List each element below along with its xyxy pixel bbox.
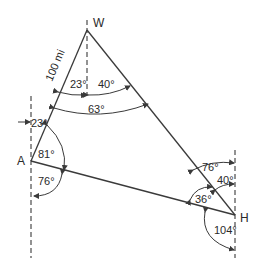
angle-w-left: 23° <box>70 78 87 90</box>
angle-a-bearing: 23° <box>31 117 48 129</box>
distance-label: 100 mi <box>43 48 67 83</box>
arc-w-23 <box>58 92 86 95</box>
angle-a-lower: 76° <box>38 175 55 187</box>
side-wh <box>87 30 235 215</box>
angle-h-interior: 36° <box>195 193 212 205</box>
angle-w-total: 63° <box>88 103 105 115</box>
angle-h-lower: 104° <box>214 224 237 236</box>
point-label-h: H <box>240 211 249 225</box>
angle-a-upper: 81° <box>38 148 55 160</box>
angle-w-right: 40° <box>98 78 115 90</box>
triangle-diagram: W A H 100 mi 23° 40° 63° 23° 81° 76° 76°… <box>0 0 259 279</box>
point-label-a: A <box>17 154 25 168</box>
angle-h-upper: 76° <box>202 161 219 173</box>
point-label-w: W <box>93 16 105 30</box>
angle-h-mid: 40° <box>217 174 234 186</box>
